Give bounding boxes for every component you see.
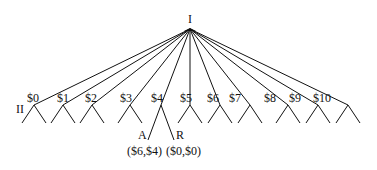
response-edge-left: [80, 105, 92, 123]
offer-label: $6: [207, 91, 219, 105]
accept-label: A: [138, 128, 147, 142]
offer-label: $8: [264, 91, 276, 105]
response-edge-left: [276, 105, 288, 123]
offer-label: $9: [289, 91, 301, 105]
response-edge-left: [118, 105, 130, 123]
game-tree: I II A R ($6,$4) ($0,$0) $0$1$2$3$4$5$6$…: [0, 0, 377, 170]
response-edge-right: [63, 105, 75, 123]
offer-label: $2: [85, 91, 97, 105]
response-edge-left: [238, 105, 250, 123]
response-edge-right: [348, 105, 360, 123]
offer-label: $0: [27, 91, 39, 105]
reject-edge: [161, 105, 174, 140]
accept-payoff: ($6,$4): [127, 144, 162, 158]
response-edge-left: [51, 105, 63, 123]
tree-edges: [22, 28, 360, 140]
response-edge-left: [178, 105, 190, 123]
offer-label: $10: [313, 91, 331, 105]
offer-label: $1: [57, 91, 69, 105]
response-edge-right: [318, 105, 330, 123]
response-edge-left: [208, 105, 220, 123]
response-edge-right: [190, 105, 202, 123]
offer-label: $3: [120, 91, 132, 105]
root-player-label: I: [188, 12, 192, 26]
response-edge-right: [130, 105, 142, 123]
offer-label: $5: [180, 91, 192, 105]
accept-edge: [148, 105, 161, 140]
reject-label: R: [176, 128, 184, 142]
response-edge-right: [250, 105, 262, 123]
response-edge-right: [220, 105, 232, 123]
reject-payoff: ($0,$0): [166, 144, 201, 158]
response-edge-right: [34, 105, 46, 123]
player-two-label: II: [16, 102, 24, 116]
offer-edge: [190, 29, 250, 105]
offer-label: $7: [229, 91, 241, 105]
response-edge-left: [306, 105, 318, 123]
response-edge-left: [336, 105, 348, 123]
response-edge-right: [288, 105, 300, 123]
root-node: [184, 28, 196, 31]
offer-label: $4: [151, 91, 163, 105]
response-edge-right: [92, 105, 104, 123]
